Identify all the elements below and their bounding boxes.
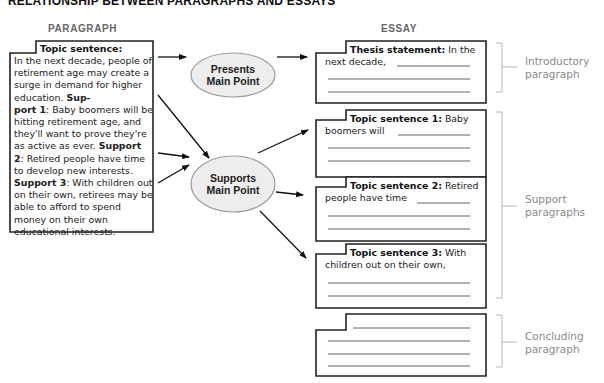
presents-main-point-label: Presents Main Point: [193, 63, 273, 87]
intro-bracket: [496, 43, 517, 92]
supports-line-2: Main Point: [193, 184, 273, 196]
conclusion-bracket: [496, 315, 517, 367]
conclusion-box-outline: [316, 314, 486, 376]
topic1-label: Topic sentence 1: [350, 113, 438, 124]
topic3-label: Topic sentence 3: [350, 247, 438, 258]
support-bracket: [496, 112, 517, 298]
intro-line-1: Introductory: [525, 55, 590, 68]
concluding-paragraph-label: Concluding paragraph: [525, 330, 584, 356]
intro-paragraph-label: Introductory paragraph: [525, 55, 590, 81]
topic2-line-1: Topic sentence 2: Retired: [350, 180, 478, 192]
arrow-support2-to-supports: [158, 153, 189, 157]
topic1-line-2: boomers will: [325, 125, 385, 137]
topic2-label: Topic sentence 2: [350, 180, 438, 191]
support-line-2: paragraphs: [525, 206, 585, 219]
intro-line-2: paragraph: [525, 68, 590, 81]
topic1-text: Baby: [442, 113, 469, 124]
paragraph-topic-heading: Topic sentence:: [40, 43, 122, 54]
supports-line-1: Supports: [193, 172, 273, 184]
support-3-label: Support 3: [14, 177, 66, 188]
presents-line-1: Presents: [193, 63, 273, 75]
supports-main-point-label: Supports Main Point: [193, 172, 273, 196]
paragraph-text: : Retired people have time to develop ne…: [14, 153, 145, 176]
support-line-1: Support: [525, 193, 585, 206]
conclusion-line-2: paragraph: [525, 343, 584, 356]
arrow-supports-to-topic2: [276, 192, 303, 195]
topic3-line-2: children out on their own,: [325, 259, 446, 271]
arrow-topic-to-supports: [158, 95, 209, 158]
thesis-text: In the: [445, 44, 475, 55]
arrow-support3-to-supports: [158, 165, 189, 183]
paragraph-body: In the next decade, people of retirement…: [14, 55, 154, 238]
arrow-supports-to-topic1: [258, 130, 308, 153]
topic3-text: With: [442, 247, 466, 258]
topic3-line-1: Topic sentence 3: With: [350, 247, 466, 259]
support-paragraphs-label: Support paragraphs: [525, 193, 585, 219]
topic2-text: Retired: [442, 180, 479, 191]
thesis-line-1: Thesis statement: In the: [350, 44, 475, 56]
presents-line-2: Main Point: [193, 75, 273, 87]
thesis-label: Thesis statement: [350, 44, 442, 55]
topic2-line-2: people have time: [325, 192, 407, 204]
thesis-line-2: next decade,: [325, 56, 386, 68]
topic1-line-1: Topic sentence 1: Baby: [350, 113, 469, 125]
conclusion-line-1: Concluding: [525, 330, 584, 343]
arrow-supports-to-topic3: [260, 211, 306, 258]
